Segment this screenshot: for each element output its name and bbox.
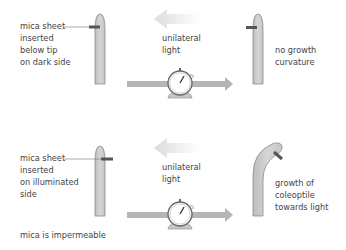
label-line: growth of: [275, 177, 328, 189]
label-line: mica sheet: [20, 20, 71, 32]
light-label-bottom: unilateral light: [162, 161, 201, 185]
label-line: on dark side: [20, 56, 71, 68]
label-line: curvature: [275, 56, 316, 68]
light-label-top: unilateral light: [162, 32, 201, 56]
label-line: light: [162, 173, 201, 185]
mica-label-top: mica sheet inserted below tip on dark si…: [20, 20, 71, 68]
coleoptile-left-top: [95, 14, 105, 84]
label-line: side: [20, 188, 79, 200]
label-line: no growth: [275, 44, 316, 56]
result-label-bottom: growth of coleoptile towards light: [275, 177, 328, 213]
coleoptile-left-bottom: [95, 146, 105, 216]
mica-sheet: [89, 26, 100, 29]
stopwatch-icon: [168, 68, 193, 98]
stopwatch-icon: [168, 199, 193, 229]
label-line: coleoptile: [275, 189, 328, 201]
result-label-top: no growth curvature: [275, 44, 316, 68]
label-line: light: [162, 44, 201, 56]
label-line: on illuminated: [20, 176, 79, 188]
label-line: below tip: [20, 44, 71, 56]
mica-sheet: [246, 26, 257, 29]
coleoptile-right-top: [253, 14, 263, 84]
label-line: mica sheet: [20, 152, 79, 164]
label-line: unilateral: [162, 161, 201, 173]
mica-label-bottom: mica sheet inserted on illuminated side: [20, 152, 79, 200]
light-arrow: [154, 138, 200, 158]
label-line: inserted: [20, 164, 79, 176]
light-arrow: [154, 9, 200, 29]
mica-sheet: [101, 158, 113, 161]
footnote: mica is impermeable: [20, 229, 106, 241]
label-line: inserted: [20, 32, 71, 44]
label-line: unilateral: [162, 32, 201, 44]
label-line: towards light: [275, 201, 328, 213]
